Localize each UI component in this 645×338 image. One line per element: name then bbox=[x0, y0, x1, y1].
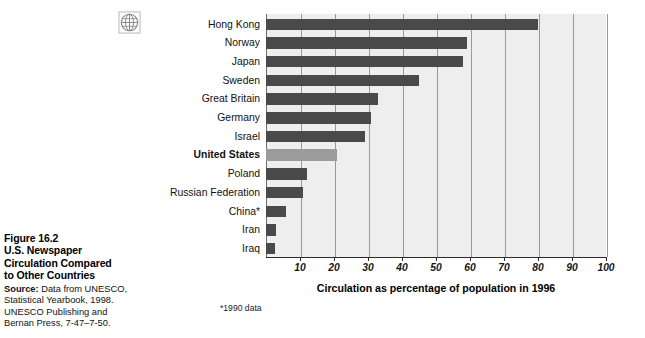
category-label-russian-federation: Russian Federation bbox=[170, 184, 260, 203]
x-tick-label-50: 50 bbox=[430, 262, 441, 273]
category-label-japan: Japan bbox=[232, 53, 260, 72]
bar-poland bbox=[266, 168, 307, 180]
bar-germany bbox=[266, 112, 371, 124]
bar-row: Great Britain bbox=[266, 90, 606, 109]
category-label-norway: Norway bbox=[225, 34, 260, 53]
bar-sweden bbox=[266, 75, 419, 87]
source-line-3: UNESCO Publishing and bbox=[4, 307, 194, 319]
bar-row: Poland bbox=[266, 165, 606, 184]
bar-row: China* bbox=[266, 203, 606, 222]
source-line-4: Bernan Press, 7-47–7-50. bbox=[4, 318, 194, 330]
source-line-2: Statistical Yearbook, 1998. bbox=[4, 295, 194, 307]
tick-100 bbox=[606, 257, 607, 261]
bar-united-states bbox=[266, 149, 337, 161]
bar-great-britain bbox=[266, 93, 378, 105]
bar-row: Hong Kong bbox=[266, 16, 606, 35]
chart-footnote: *1990 data bbox=[220, 303, 262, 313]
x-tick-label-80: 80 bbox=[532, 262, 543, 273]
tick-10 bbox=[300, 257, 301, 261]
x-tick-label-20: 20 bbox=[328, 262, 339, 273]
x-tick-label-100: 100 bbox=[597, 262, 614, 273]
figure-title-line-2: Circulation Compared bbox=[4, 257, 194, 269]
category-label-hong-kong: Hong Kong bbox=[208, 16, 260, 35]
globe-icon bbox=[118, 11, 141, 34]
bar-iran bbox=[266, 224, 276, 236]
bar-row: Norway bbox=[266, 34, 606, 53]
bar-row: Germany bbox=[266, 109, 606, 128]
bar-chart: Hong KongNorwayJapanSwedenGreat BritainG… bbox=[266, 14, 606, 257]
category-label-poland: Poland bbox=[228, 165, 260, 184]
figure-caption: Figure 16.2 U.S. Newspaper Circulation C… bbox=[4, 232, 194, 330]
figure-title-block: Figure 16.2 U.S. Newspaper Circulation C… bbox=[4, 232, 194, 282]
x-tick-label-40: 40 bbox=[396, 262, 407, 273]
source-line-1: Source: Data from UNESCO, bbox=[4, 284, 194, 296]
category-label-sweden: Sweden bbox=[222, 72, 260, 91]
bar-iraq bbox=[266, 243, 275, 255]
category-label-iran: Iran bbox=[242, 221, 260, 240]
bar-japan bbox=[266, 56, 463, 68]
x-tick-label-30: 30 bbox=[362, 262, 373, 273]
x-tick-label-10: 10 bbox=[294, 262, 305, 273]
tick-90 bbox=[572, 257, 573, 261]
tick-70 bbox=[504, 257, 505, 261]
tick-80 bbox=[538, 257, 539, 261]
figure-container: Figure 16.2 U.S. Newspaper Circulation C… bbox=[0, 0, 645, 338]
source-label: Source: bbox=[4, 284, 39, 294]
bar-row: Iran bbox=[266, 221, 606, 240]
figure-source: Source: Data from UNESCO, Statistical Ye… bbox=[4, 284, 194, 330]
x-tick-label-90: 90 bbox=[566, 262, 577, 273]
tick-50 bbox=[436, 257, 437, 261]
bar-china bbox=[266, 206, 286, 218]
tick-20 bbox=[334, 257, 335, 261]
source-text-1: Data from UNESCO, bbox=[39, 284, 127, 294]
bar-hong-kong bbox=[266, 19, 538, 31]
category-label-great-britain: Great Britain bbox=[202, 90, 260, 109]
gridline-100 bbox=[607, 14, 608, 257]
category-label-iraq: Iraq bbox=[242, 240, 260, 259]
bar-row: Israel bbox=[266, 128, 606, 147]
tick-40 bbox=[402, 257, 403, 261]
bar-norway bbox=[266, 37, 467, 49]
x-tick-label-60: 60 bbox=[464, 262, 475, 273]
bar-israel bbox=[266, 131, 365, 143]
x-axis-title: Circulation as percentage of population … bbox=[266, 282, 606, 294]
bar-russian-federation bbox=[266, 187, 303, 199]
category-label-china: China* bbox=[229, 203, 260, 222]
tick-60 bbox=[470, 257, 471, 261]
figure-title-line-3: to Other Countries bbox=[4, 269, 194, 281]
x-tick-label-70: 70 bbox=[498, 262, 509, 273]
figure-title-line-1: U.S. Newspaper bbox=[4, 244, 194, 256]
bar-row: Sweden bbox=[266, 72, 606, 91]
category-label-united-states: United States bbox=[194, 146, 260, 165]
category-label-israel: Israel bbox=[235, 128, 260, 147]
bar-row: Iraq bbox=[266, 240, 606, 259]
tick-30 bbox=[368, 257, 369, 261]
bar-row: Russian Federation bbox=[266, 184, 606, 203]
figure-number: Figure 16.2 bbox=[4, 232, 194, 244]
category-label-germany: Germany bbox=[217, 109, 260, 128]
bar-row: United States bbox=[266, 146, 606, 165]
bar-row: Japan bbox=[266, 53, 606, 72]
